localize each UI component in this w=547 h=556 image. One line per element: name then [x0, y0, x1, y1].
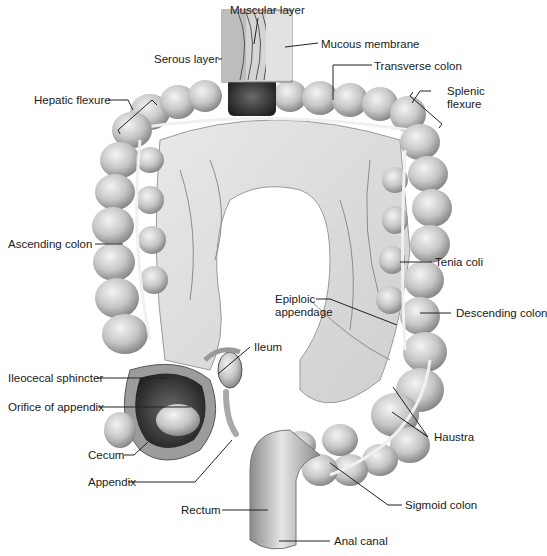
label-tenia-coli: Tenia coli — [435, 256, 483, 269]
label-splenic-flexure-line1: Splenic — [447, 85, 485, 98]
cecum-shape — [104, 350, 242, 460]
label-hepatic-flexure: Hepatic flexure — [34, 94, 111, 107]
label-haustra: Haustra — [434, 431, 474, 444]
label-serous-layer: Serous layer — [154, 53, 219, 66]
rectum-shape — [250, 430, 320, 549]
label-epiploic-appendage-line2: appendage — [275, 306, 333, 319]
label-mucous-membrane: Mucous membrane — [321, 38, 419, 51]
label-ascending-colon: Ascending colon — [8, 238, 92, 251]
label-appendix: Appendix — [88, 476, 136, 489]
label-sigmoid-colon: Sigmoid colon — [405, 499, 477, 512]
label-ileocecal-sphincter: Ileocecal sphincter — [8, 372, 103, 385]
label-muscular-layer: Muscular layer — [230, 4, 305, 17]
mesentery — [156, 120, 410, 403]
label-rectum: Rectum — [181, 504, 221, 517]
label-transverse-colon: Transverse colon — [374, 60, 462, 73]
label-splenic-flexure-line2: flexure — [447, 98, 482, 111]
label-descending-colon: Descending colon — [456, 307, 547, 320]
label-anal-canal: Anal canal — [334, 535, 388, 548]
wall-cross-section — [222, 10, 292, 82]
label-cecum: Cecum — [88, 449, 124, 462]
label-epiploic-appendage-line1: Epiploic — [275, 293, 315, 306]
ascending-colon-shape — [92, 112, 168, 354]
label-ileum: Ileum — [254, 341, 282, 354]
label-orifice-of-appendix: Orifice of appendix — [8, 401, 104, 414]
